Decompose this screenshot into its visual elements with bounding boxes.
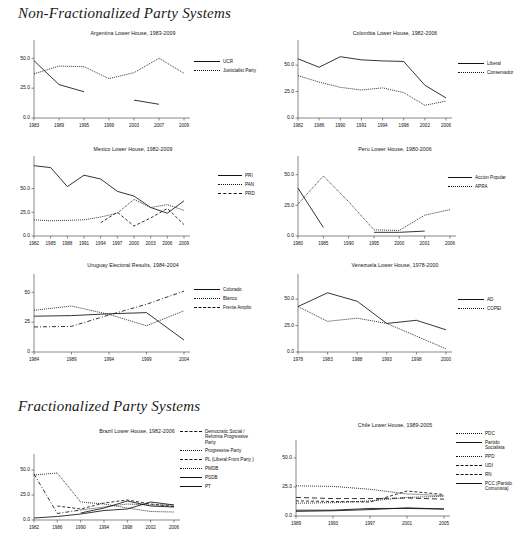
legend-label: AD	[487, 296, 493, 302]
series-line	[298, 76, 446, 106]
plot-area: 0.025.050.01983198919951999200320072009	[8, 30, 192, 138]
x-axis-tick-label: 2006	[441, 123, 452, 128]
chart-legend: PRIPANPRD	[218, 172, 255, 199]
legend-label: PCC (Partido Comunista)	[485, 480, 512, 492]
x-axis-tick-label: 1989	[54, 123, 65, 128]
x-axis-tick-label: 2000	[129, 241, 140, 246]
legend-item: AD	[458, 296, 501, 303]
x-axis-tick-label: 2004	[179, 357, 190, 362]
x-axis-tick-label: 1994	[104, 357, 115, 362]
legend-line-swatch	[194, 67, 220, 74]
legend-item: PRI	[218, 172, 255, 179]
legend-label: PT	[205, 483, 211, 489]
chart-panel-venezuela: Venezuela Lower House, 1978-20000.025.05…	[272, 262, 518, 377]
chart-legend: LiberalConservador	[458, 60, 513, 78]
x-axis-tick-label: 1983	[29, 123, 40, 128]
legend-item: RN	[456, 471, 520, 478]
legend-label: Progressive Party	[205, 447, 241, 453]
legend-label: RN	[485, 471, 492, 477]
x-axis-tick-label: 1978	[293, 357, 304, 362]
series-line	[34, 58, 184, 78]
legend-label: Liberal	[487, 60, 501, 66]
x-axis-tick-label: 1994	[96, 241, 107, 246]
x-axis-tick-label: 2006	[445, 241, 456, 246]
x-axis-tick-label: 1982	[293, 123, 304, 128]
plot-area: 0255019841989199419992004	[8, 262, 192, 372]
legend-line-swatch	[180, 474, 202, 481]
x-axis-tick-label: 1995	[79, 123, 90, 128]
series-line	[101, 208, 184, 226]
y-axis-tick-label: 25.0	[20, 209, 30, 215]
legend-label: Justicialist Party	[223, 67, 256, 73]
x-axis-tick-label: 1988	[62, 241, 73, 246]
x-axis-tick-label: 1991	[79, 241, 90, 246]
chart-legend: Accion PopularAPRA	[448, 174, 506, 192]
x-axis-tick-label: 1997	[365, 521, 376, 526]
legend-item: PAN	[218, 181, 255, 188]
x-axis-tick-label: 2009	[179, 241, 190, 246]
chart-legend: PDCPartido SocialistaPPDUDIRNPCC (Partid…	[456, 430, 520, 494]
legend-label: PL (Liberal Front Party )	[205, 456, 254, 462]
x-axis-tick-label: 1986	[52, 525, 63, 530]
legend-label: Frente Amplio	[223, 304, 251, 310]
legend-item: Justicialist Party	[194, 67, 256, 74]
legend-line-swatch	[448, 183, 472, 190]
chart-legend: ADCOPEI	[458, 296, 501, 314]
y-axis-tick-label: 0.0	[287, 114, 294, 120]
legend-line-swatch	[218, 190, 242, 197]
legend-line-swatch	[180, 447, 202, 454]
x-axis-tick-label: 1986	[314, 123, 325, 128]
x-axis-tick-label: 1990	[76, 525, 87, 530]
legend-item: Accion Popular	[448, 174, 506, 181]
y-axis-tick-label: 50.0	[284, 61, 294, 67]
y-axis-tick-label: 0	[27, 348, 30, 354]
chart-panel-mexico: Mexico Lower House, 1982-20090.025.050.0…	[8, 146, 258, 258]
legend-item: APRA	[448, 183, 506, 190]
legend-line-swatch	[194, 286, 220, 293]
legend-line-swatch	[194, 295, 220, 302]
legend-item: PSDB	[180, 474, 254, 481]
series-line	[34, 61, 84, 92]
legend-line-swatch	[194, 58, 220, 65]
x-axis-tick-label: 2009	[179, 123, 190, 128]
chart-panel-argentina: Argentina Lower House, 1983-20090.025.05…	[8, 30, 258, 140]
x-axis-tick-label: 1995	[369, 241, 380, 246]
legend-item: Blanco	[194, 295, 251, 302]
x-axis-tick-label: 1980	[293, 241, 304, 246]
series-line	[34, 199, 184, 220]
x-axis-tick-label: 1993	[328, 521, 339, 526]
legend-label: APRA	[475, 183, 488, 189]
series-line	[374, 231, 425, 232]
legend-line-swatch	[180, 465, 202, 472]
legend-label: Colorado	[223, 286, 242, 292]
legend-item: Partido Socialista	[456, 439, 520, 451]
legend-item: PMDB	[180, 465, 254, 472]
legend-line-swatch	[456, 453, 482, 460]
section-heading-fractionalized: Fractionalized Party Systems	[18, 398, 200, 415]
legend-line-swatch	[458, 305, 484, 312]
series-line	[296, 496, 444, 503]
y-axis-tick-label: 25.0	[284, 88, 294, 94]
y-axis-tick-label: 25	[24, 318, 30, 324]
series-line	[34, 291, 184, 327]
legend-item: Colorado	[194, 286, 251, 293]
legend-item: Progressive Party	[180, 447, 254, 454]
plot-area: 0.025.050.01980198519901995200020012006	[272, 146, 458, 256]
legend-line-swatch	[456, 439, 482, 446]
y-axis-tick-label: 0.0	[285, 512, 292, 518]
legend-label: Blanco	[223, 295, 237, 301]
legend-label: Conservador	[487, 69, 513, 75]
y-axis-tick-label: 0.0	[287, 232, 294, 238]
y-axis-tick-label: 0.0	[23, 114, 30, 120]
x-axis-tick-label: 1994	[99, 525, 110, 530]
x-axis-tick-label: 2005	[439, 521, 450, 526]
x-axis-tick-label: 1984	[29, 357, 40, 362]
y-axis-tick-label: 0.0	[23, 516, 30, 522]
figure-page: Non-Fractionalized Party Systems Fractio…	[0, 0, 521, 538]
chart-panel-peru: Peru Lower House, 1980-20060.025.050.019…	[272, 146, 518, 258]
x-axis-tick-label: 2002	[146, 525, 157, 530]
series-line	[298, 293, 446, 330]
legend-line-swatch	[456, 462, 482, 469]
x-axis-tick-label: 1989	[291, 521, 302, 526]
legend-item: PDC	[456, 430, 520, 437]
